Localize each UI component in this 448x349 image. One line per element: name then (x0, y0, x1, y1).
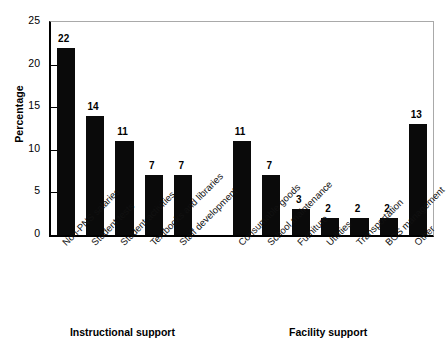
y-axis-tick-label: 5 (0, 184, 40, 196)
bar-value-label: 7 (162, 160, 200, 171)
group-label-facility-support: Facility support (248, 326, 408, 338)
bar[interactable] (57, 48, 75, 235)
bar-value-label: 7 (250, 160, 288, 171)
bar-value-label: 22 (45, 33, 83, 44)
bar-value-label: 11 (221, 126, 259, 137)
y-axis-tick-label: 0 (0, 227, 40, 239)
bar-chart-figure: Percentage 0510152025 22141177117322213 … (0, 0, 448, 349)
y-axis-tick-label: 25 (0, 14, 40, 26)
bar-value-label: 13 (397, 109, 435, 120)
bar-value-label: 14 (74, 101, 112, 112)
bar[interactable] (233, 141, 251, 235)
y-axis-tick-label: 15 (0, 99, 40, 111)
group-label-instructional-support: Instructional support (42, 326, 202, 338)
y-axis-tick-label: 10 (0, 142, 40, 154)
bar-value-label: 11 (103, 126, 141, 137)
y-axis-tick-label: 20 (0, 57, 40, 69)
